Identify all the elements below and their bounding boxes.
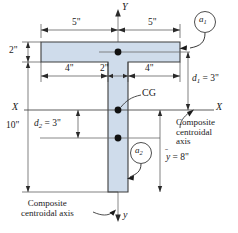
d1-subscript: 1	[197, 77, 200, 84]
x-axis-left-label: X	[12, 102, 18, 113]
composite-axis-bottom-line-2: centroidal axis	[21, 209, 74, 219]
area2-subscript: 2	[140, 149, 143, 156]
composite-axis-bottom-label: Composite centroidal axis	[21, 199, 74, 218]
arrow-ybar-bot	[158, 186, 162, 192]
composite-axis-right-label: Composite centroidal axis	[176, 118, 215, 147]
engineering-diagram: Y y X X 5" 5" 2" 10" 4" 2" 4" CG d1 = 3"…	[0, 0, 238, 233]
d1-value: = 3"	[203, 73, 219, 83]
bottom-axis-leader-arrow	[110, 210, 117, 216]
composite-axis-right-line-3: axis	[176, 137, 215, 147]
ybar-label: ̄y = 8"	[166, 152, 189, 162]
area1-leader-arrow	[180, 45, 188, 50]
arrow-top-mid-right	[118, 28, 125, 33]
cg-label: CG	[142, 88, 156, 99]
arrow-d1-bot	[186, 104, 190, 110]
d2-value: = 3"	[45, 118, 61, 128]
cg-dot	[115, 107, 122, 114]
dim-flange-right: 5"	[148, 17, 157, 27]
dim-web-width: 2"	[100, 63, 109, 73]
arrow-d1-top	[186, 52, 190, 58]
arrow-inner-5	[128, 74, 135, 79]
web-centroid-dot	[115, 135, 122, 142]
y-axis-top-label: Y	[122, 2, 128, 13]
tee-cross-section	[41, 42, 180, 192]
flange-centroid-dot	[115, 49, 122, 56]
arrow-top-right	[173, 28, 180, 33]
x-axis-right-label: X	[216, 102, 222, 113]
arrow-top-mid-left	[111, 28, 118, 33]
y-axis-arrow-bottom	[115, 215, 121, 223]
dim-inner-right: 4"	[145, 63, 154, 73]
arrow-inner-6	[173, 74, 180, 79]
right-axis-leader-arrow	[187, 110, 194, 117]
arrow-top-left	[41, 28, 48, 33]
dim-total-height: 10"	[6, 120, 19, 130]
d2-label: d2 = 3"	[34, 118, 61, 129]
y-axis-bottom-label: y	[123, 210, 127, 221]
d2-subscript: 2	[39, 122, 42, 129]
ybar-value: = 8"	[173, 152, 189, 162]
arrow-d2-bot	[76, 132, 80, 138]
area1-leader-line	[190, 33, 205, 48]
arrow-ybar-top	[158, 110, 162, 116]
area2-label: a2	[135, 146, 143, 156]
arrow-d2-top	[76, 110, 80, 116]
dim-inner-left: 4"	[65, 63, 74, 73]
dim-flange-thickness: 2"	[9, 45, 18, 55]
arrow-height-bot	[26, 186, 30, 192]
arrow-inner-2	[101, 74, 108, 79]
area1-subscript: 1	[204, 18, 207, 25]
y-axis-arrow-top	[115, 9, 121, 17]
arrow-flange-bot	[26, 56, 30, 62]
ybar-symbol: ̄y	[166, 152, 170, 162]
area1-label: a1	[199, 15, 207, 25]
arrow-inner-1	[41, 74, 48, 79]
arrow-height-top	[26, 62, 30, 68]
area2-leader-line	[130, 164, 141, 177]
arrow-flange-top	[26, 42, 30, 48]
d1-label: d1 = 3"	[192, 73, 219, 84]
dim-flange-left: 5"	[72, 17, 81, 27]
